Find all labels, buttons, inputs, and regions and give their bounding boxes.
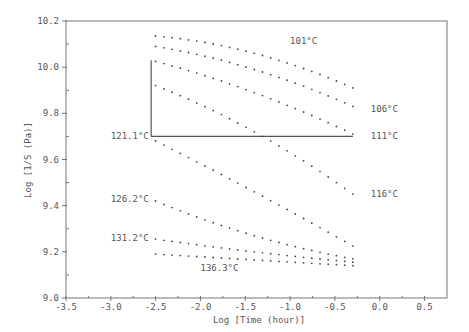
data-point bbox=[245, 232, 247, 234]
data-point bbox=[204, 245, 206, 247]
data-point bbox=[311, 165, 313, 167]
data-point bbox=[344, 129, 346, 131]
data-point bbox=[278, 145, 280, 147]
data-point bbox=[253, 235, 255, 237]
data-point bbox=[212, 257, 214, 259]
chart: 9.09.29.49.69.810.010.2-3.5-3.0-2.5-2.0-… bbox=[0, 0, 469, 332]
data-point bbox=[327, 122, 329, 124]
data-point bbox=[196, 244, 198, 246]
data-point bbox=[262, 195, 264, 197]
y-tick-label: 9.6 bbox=[43, 155, 59, 165]
data-point bbox=[311, 262, 313, 264]
data-point bbox=[229, 227, 231, 229]
data-point bbox=[278, 101, 280, 103]
x-tick-label: -1.0 bbox=[279, 302, 301, 312]
data-point bbox=[311, 115, 313, 117]
data-point bbox=[196, 256, 198, 258]
data-point bbox=[336, 182, 338, 184]
data-point bbox=[352, 87, 354, 89]
data-point bbox=[221, 114, 223, 116]
data-point bbox=[262, 71, 264, 73]
data-point bbox=[286, 150, 288, 152]
data-point bbox=[336, 80, 338, 82]
data-point bbox=[278, 254, 280, 256]
data-point bbox=[303, 111, 305, 113]
data-point bbox=[221, 174, 223, 176]
data-point bbox=[319, 258, 321, 260]
data-point bbox=[294, 213, 296, 215]
data-point bbox=[245, 250, 247, 252]
data-point bbox=[163, 204, 165, 206]
data-point bbox=[179, 210, 181, 212]
data-point bbox=[179, 153, 181, 155]
data-point bbox=[196, 161, 198, 163]
data-point bbox=[344, 84, 346, 86]
y-tick-label: 9.2 bbox=[43, 247, 59, 257]
data-point bbox=[188, 70, 190, 72]
data-point bbox=[294, 108, 296, 110]
data-point bbox=[303, 248, 305, 250]
data-point bbox=[188, 98, 190, 100]
data-point bbox=[204, 55, 206, 57]
data-point bbox=[344, 264, 346, 266]
data-point bbox=[294, 155, 296, 157]
data-point bbox=[204, 75, 206, 77]
data-point bbox=[253, 191, 255, 193]
data-point bbox=[179, 50, 181, 52]
data-point bbox=[286, 244, 288, 246]
data-point bbox=[155, 200, 157, 202]
data-point bbox=[327, 77, 329, 79]
data-point bbox=[303, 218, 305, 220]
data-point bbox=[171, 37, 173, 39]
data-point bbox=[270, 260, 272, 262]
series-label: 121.1°C bbox=[111, 131, 149, 141]
data-point bbox=[352, 265, 354, 267]
data-point bbox=[155, 140, 157, 142]
data-point bbox=[253, 259, 255, 261]
data-point bbox=[245, 187, 247, 189]
data-point bbox=[212, 246, 214, 248]
data-point bbox=[163, 88, 165, 90]
data-point bbox=[262, 55, 264, 57]
data-point bbox=[270, 140, 272, 142]
data-point bbox=[188, 157, 190, 159]
data-point bbox=[229, 248, 231, 250]
data-point bbox=[327, 176, 329, 178]
data-point bbox=[336, 260, 338, 262]
data-point bbox=[270, 98, 272, 100]
axes: 9.09.29.49.69.810.010.2-3.5-3.0-2.5-2.0-… bbox=[37, 16, 447, 312]
data-point bbox=[171, 241, 173, 243]
data-point bbox=[245, 126, 247, 128]
data-point bbox=[286, 104, 288, 106]
data-point bbox=[294, 65, 296, 67]
data-point bbox=[344, 102, 346, 104]
data-point bbox=[294, 82, 296, 84]
series-label: 131.2°C bbox=[111, 233, 149, 243]
data-point bbox=[196, 216, 198, 218]
data-point bbox=[253, 131, 255, 133]
data-point bbox=[319, 251, 321, 253]
data-point bbox=[221, 45, 223, 47]
data-point bbox=[262, 260, 264, 262]
x-tick-label: -3.0 bbox=[100, 302, 122, 312]
x-tick-label: 0.5 bbox=[416, 302, 432, 312]
data-point bbox=[352, 106, 354, 108]
data-point bbox=[286, 209, 288, 211]
data-point bbox=[278, 204, 280, 206]
data-point bbox=[253, 52, 255, 54]
data-point bbox=[204, 106, 206, 108]
data-point bbox=[327, 231, 329, 233]
data-point bbox=[344, 241, 346, 243]
x-tick-label: 0.0 bbox=[372, 302, 388, 312]
data-point bbox=[171, 148, 173, 150]
data-point bbox=[294, 261, 296, 263]
x-tick-label: -0.5 bbox=[324, 302, 346, 312]
data-point bbox=[327, 263, 329, 265]
series-label: 111°C bbox=[371, 131, 398, 141]
data-point bbox=[188, 255, 190, 257]
data-point bbox=[303, 85, 305, 87]
data-point bbox=[196, 72, 198, 74]
data-point bbox=[163, 47, 165, 49]
data-point bbox=[221, 59, 223, 61]
data-point bbox=[196, 53, 198, 55]
